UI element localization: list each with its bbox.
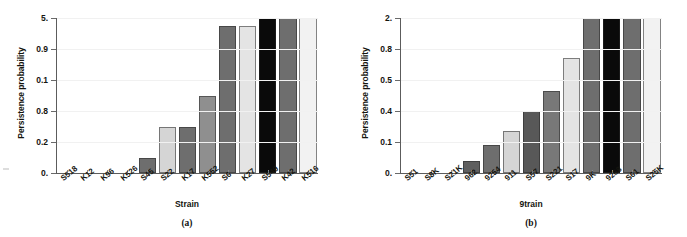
bar-S17 — [563, 58, 580, 173]
plot-inner-a: 5.0.90.10.80.20. — [56, 18, 318, 174]
bar-K17 — [179, 127, 196, 174]
y-tick-mark — [395, 49, 400, 50]
y-tick-mark — [51, 49, 56, 50]
y-tick-label: 0. — [366, 168, 392, 178]
y-tick-label: 0.4 — [366, 106, 392, 116]
bar-K42 — [279, 18, 296, 173]
gridline — [57, 80, 318, 81]
bar-S221 — [543, 91, 560, 173]
bar-9268 — [603, 18, 620, 173]
y-tick-label: 0.9 — [22, 44, 48, 54]
bar-S25K — [643, 18, 660, 173]
y-tick-label: 0.8 — [366, 44, 392, 54]
bar-911 — [503, 131, 520, 173]
y-tick-label: 0.1 — [22, 75, 48, 85]
bar-S549 — [259, 18, 276, 173]
gridline — [401, 18, 662, 19]
y-tick-mark — [395, 80, 400, 81]
chart-panel-a: Persistence probability 5.0.90.10.80.20.… — [0, 0, 343, 237]
y-tick-mark — [51, 80, 56, 81]
y-tick-mark — [395, 111, 400, 112]
plot-area-a: 5.0.90.10.80.20. — [56, 18, 318, 174]
gridline — [401, 111, 662, 112]
gridline — [401, 80, 662, 81]
y-tick-mark — [395, 142, 400, 143]
panel-caption-a: (a) — [56, 218, 318, 228]
gridline — [401, 49, 662, 50]
bar-series-a — [57, 18, 318, 173]
bar-S61 — [623, 18, 640, 173]
bar-series-b — [401, 18, 662, 173]
y-tick-label: 0. — [22, 168, 48, 178]
gridline — [57, 142, 318, 143]
bar-K27 — [239, 26, 256, 173]
y-tick-mark — [51, 142, 56, 143]
figure-canvas: Persistence probability 5.0.90.10.80.20.… — [0, 0, 687, 237]
gridline — [57, 18, 318, 19]
y-tick-label: 0.8 — [22, 106, 48, 116]
y-tick-mark — [395, 18, 400, 19]
bar-K516 — [299, 18, 316, 173]
panel-caption-b: (b) — [400, 218, 662, 228]
y-tick-mark — [395, 173, 400, 174]
y-tick-label: 0.5 — [366, 75, 392, 85]
plot-area-b: 2.0.80.50.40.10. — [400, 18, 662, 174]
gridline — [401, 142, 662, 143]
y-tick-mark — [51, 18, 56, 19]
y-tick-label: 2. — [366, 13, 392, 23]
gridline — [57, 49, 318, 50]
x-axis-title-b: 9train — [400, 199, 662, 209]
chart-panel-b: Persistence probability 2.0.80.50.40.10.… — [344, 0, 687, 237]
y-tick-label: 0.1 — [366, 137, 392, 147]
x-axis-title-a: Strain — [56, 199, 318, 209]
gridline — [57, 111, 318, 112]
y-tick-label: 0.2 — [22, 137, 48, 147]
bar-S22 — [159, 127, 176, 174]
bar-9K — [583, 18, 600, 173]
bar-K552 — [199, 96, 216, 174]
y-tick-mark — [51, 111, 56, 112]
bar-S6 — [219, 26, 236, 173]
y-tick-mark — [51, 173, 56, 174]
y-tick-label: 5. — [22, 13, 48, 23]
plot-inner-b: 2.0.80.50.40.10. — [400, 18, 662, 174]
